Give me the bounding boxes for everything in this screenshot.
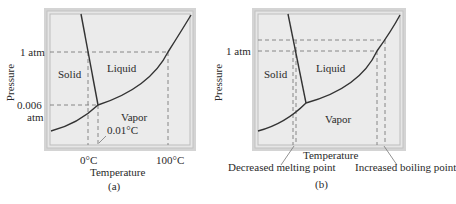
panel-a-region-vapor: Vapor bbox=[121, 112, 147, 123]
panel-b-region-solid: Solid bbox=[264, 69, 287, 80]
panel-b-melting-annotation: Decreased melting point bbox=[228, 162, 336, 173]
panel-a-y-tick-atm: atm bbox=[27, 112, 44, 123]
panel-a-caption: (a) bbox=[108, 181, 120, 192]
panel-a-y-tick-0006: 0.006 bbox=[17, 100, 42, 111]
panel-a-region-liquid: Liquid bbox=[107, 63, 136, 74]
panel-b-x-axis-label: Temperature bbox=[303, 150, 358, 161]
panel-a-x-tick-100c: 100°C bbox=[156, 155, 184, 166]
panel-b-boiling-annotation: Increased boiling point bbox=[355, 162, 456, 173]
panel-b-region-liquid: Liquid bbox=[316, 63, 345, 74]
panel-a-x-axis-label: Temperature bbox=[90, 167, 145, 178]
panel-a-y-axis-label: Pressure bbox=[5, 64, 16, 101]
panel-b-y-axis-label: Pressure bbox=[213, 64, 224, 101]
panel-b-plot bbox=[252, 8, 406, 165]
panel-a-x-tick-0c: 0°C bbox=[80, 155, 97, 166]
panel-b-region-vapor: Vapor bbox=[325, 114, 351, 125]
phase-diagrams-graphics bbox=[0, 0, 456, 204]
panel-a-y-tick-1atm: 1 atm bbox=[20, 47, 45, 58]
panel-a-triple-point-annotation: 0.01°C bbox=[107, 125, 138, 136]
panel-a-region-solid: Solid bbox=[58, 69, 81, 80]
panel-b-caption: (b) bbox=[315, 179, 328, 190]
panel-b-y-tick-1atm: 1 atm bbox=[226, 46, 251, 57]
